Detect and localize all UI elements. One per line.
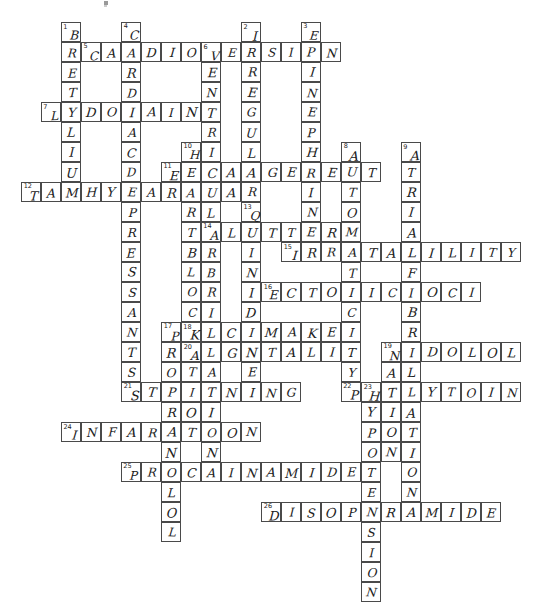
crossword-cell[interactable]: E — [201, 62, 221, 82]
crossword-cell[interactable]: 15I — [281, 242, 301, 262]
crossword-cell[interactable]: A — [161, 422, 181, 442]
crossword-cell[interactable]: L — [501, 342, 521, 362]
crossword-cell[interactable]: C — [281, 282, 301, 302]
crossword-cell[interactable]: 12T — [21, 182, 41, 202]
crossword-cell[interactable]: T — [281, 222, 301, 242]
crossword-cell[interactable]: Y — [421, 382, 441, 402]
crossword-cell[interactable]: L — [161, 482, 181, 502]
crossword-cell[interactable]: I — [221, 462, 241, 482]
crossword-cell[interactable]: A — [221, 182, 241, 202]
crossword-cell[interactable]: I — [161, 102, 181, 122]
crossword-cell[interactable]: O — [181, 282, 201, 302]
crossword-cell[interactable]: T — [401, 162, 421, 182]
crossword-cell[interactable]: N — [241, 422, 261, 442]
crossword-cell[interactable]: D — [121, 82, 141, 102]
crossword-cell[interactable]: H — [81, 182, 101, 202]
crossword-cell[interactable]: T — [201, 102, 221, 122]
crossword-cell[interactable]: R — [141, 422, 161, 442]
crossword-cell[interactable]: T — [261, 222, 281, 242]
crossword-cell[interactable]: 19N — [381, 342, 401, 362]
crossword-cell[interactable]: O — [361, 562, 381, 582]
crossword-cell[interactable]: N — [241, 342, 261, 362]
crossword-cell[interactable]: L — [401, 242, 421, 262]
crossword-cell[interactable]: D — [241, 302, 261, 322]
crossword-cell[interactable]: O — [421, 282, 441, 302]
crossword-cell[interactable]: E — [181, 162, 201, 182]
crossword-cell[interactable]: M — [61, 182, 81, 202]
crossword-cell[interactable]: T — [361, 242, 381, 262]
crossword-cell[interactable]: R — [201, 122, 221, 142]
crossword-cell[interactable]: U — [201, 182, 221, 202]
crossword-cell[interactable]: L — [241, 142, 261, 162]
crossword-cell[interactable]: 5C — [81, 42, 101, 62]
crossword-cell[interactable]: N — [241, 262, 261, 282]
crossword-cell[interactable]: A — [181, 182, 201, 202]
crossword-cell[interactable]: C — [341, 302, 361, 322]
crossword-cell[interactable]: N — [361, 502, 381, 522]
crossword-cell[interactable]: R — [301, 242, 321, 262]
crossword-cell[interactable]: L — [401, 382, 421, 402]
crossword-cell[interactable]: O — [461, 382, 481, 402]
crossword-cell[interactable]: C — [441, 282, 461, 302]
crossword-cell[interactable]: L — [221, 222, 241, 242]
crossword-cell[interactable]: U — [241, 122, 261, 142]
crossword-cell[interactable]: I — [361, 282, 381, 302]
crossword-cell[interactable]: 4C — [121, 22, 141, 42]
crossword-cell[interactable]: K — [301, 322, 321, 342]
crossword-cell[interactable]: L — [161, 522, 181, 542]
crossword-cell[interactable]: 14A — [201, 222, 221, 242]
crossword-cell[interactable]: Y — [341, 362, 361, 382]
crossword-cell[interactable]: P — [361, 422, 381, 442]
crossword-cell[interactable]: A — [261, 462, 281, 482]
crossword-cell[interactable]: R — [201, 242, 221, 262]
crossword-cell[interactable]: A — [121, 422, 141, 442]
crossword-cell[interactable]: R — [321, 222, 341, 242]
crossword-cell[interactable]: 11E — [161, 162, 181, 182]
crossword-cell[interactable]: I — [401, 442, 421, 462]
crossword-cell[interactable]: 22P — [341, 382, 361, 402]
crossword-cell[interactable]: E — [301, 222, 321, 242]
crossword-cell[interactable]: N — [301, 82, 321, 102]
crossword-cell[interactable]: C — [121, 142, 141, 162]
crossword-cell[interactable]: E — [281, 162, 301, 182]
crossword-cell[interactable]: I — [461, 242, 481, 262]
crossword-cell[interactable]: R — [201, 282, 221, 302]
crossword-cell[interactable]: 20A — [181, 342, 201, 362]
crossword-cell[interactable]: N — [381, 442, 401, 462]
crossword-cell[interactable]: O — [101, 102, 121, 122]
crossword-cell[interactable]: O — [441, 342, 461, 362]
crossword-cell[interactable]: R — [321, 242, 341, 262]
crossword-cell[interactable]: N — [221, 382, 241, 402]
crossword-cell[interactable]: I — [241, 242, 261, 262]
crossword-cell[interactable]: R — [61, 42, 81, 62]
crossword-cell[interactable]: S — [361, 522, 381, 542]
crossword-cell[interactable]: T — [181, 422, 201, 442]
crossword-cell[interactable]: T — [401, 422, 421, 442]
crossword-cell[interactable]: S — [121, 282, 141, 302]
crossword-cell[interactable]: L — [301, 342, 321, 362]
crossword-cell[interactable]: R — [181, 202, 201, 222]
crossword-cell[interactable]: L — [441, 242, 461, 262]
crossword-cell[interactable]: E — [481, 502, 501, 522]
crossword-cell[interactable]: Y — [501, 242, 521, 262]
crossword-cell[interactable]: R — [301, 162, 321, 182]
crossword-cell[interactable]: R — [121, 62, 141, 82]
crossword-cell[interactable]: F — [401, 262, 421, 282]
crossword-cell[interactable]: I — [301, 462, 321, 482]
crossword-cell[interactable]: U — [341, 162, 361, 182]
crossword-cell[interactable]: O — [381, 422, 401, 442]
crossword-cell[interactable]: Y — [361, 402, 381, 422]
crossword-cell[interactable]: 6V — [201, 42, 221, 62]
crossword-cell[interactable]: E — [241, 82, 261, 102]
crossword-cell[interactable]: R — [241, 62, 261, 82]
crossword-cell[interactable]: 13Q — [241, 202, 261, 222]
crossword-cell[interactable]: E — [61, 62, 81, 82]
crossword-cell[interactable]: M — [281, 462, 301, 482]
crossword-cell[interactable]: T — [441, 382, 461, 402]
crossword-cell[interactable]: Y — [101, 182, 121, 202]
crossword-cell[interactable]: I — [341, 282, 361, 302]
crossword-cell[interactable]: P — [341, 502, 361, 522]
crossword-cell[interactable]: G — [221, 342, 241, 362]
crossword-cell[interactable]: O — [321, 282, 341, 302]
crossword-cell[interactable]: A — [141, 102, 161, 122]
